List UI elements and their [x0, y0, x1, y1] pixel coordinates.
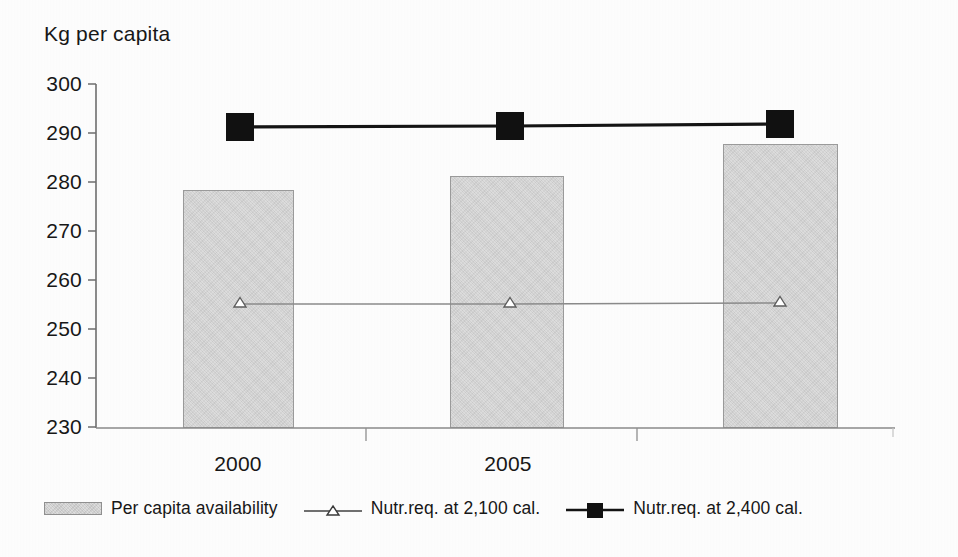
line-square-filled-icon — [566, 502, 624, 516]
chart-legend: Per capita availability Nutr.req. at 2,1… — [44, 498, 829, 519]
legend-item-nutr-req-2100: Nutr.req. at 2,100 cal. — [304, 498, 567, 519]
line-triangle-open-icon — [304, 502, 362, 516]
bar-swatch-icon — [44, 502, 102, 515]
series-line-2100 — [234, 297, 786, 308]
legend-item-nutr-req-2400: Nutr.req. at 2,400 cal. — [566, 498, 829, 519]
x-axis-tick-label-2005: 2005 — [438, 452, 578, 476]
marker-triangle-open — [234, 298, 246, 308]
marker-triangle-open — [504, 298, 516, 308]
marker-square-filled — [496, 112, 524, 140]
legend-item-per-capita-availability: Per capita availability — [44, 498, 304, 519]
legend-label: Nutr.req. at 2,400 cal. — [633, 498, 803, 519]
marker-square-filled — [766, 110, 794, 138]
legend-label: Nutr.req. at 2,100 cal. — [371, 498, 541, 519]
chart-page: Kg per capita 300 290 280 270 260 250 24… — [0, 0, 958, 557]
series-line-2400 — [226, 110, 794, 141]
legend-label: Per capita availability — [111, 498, 278, 519]
marker-triangle-open — [774, 297, 786, 307]
x-axis-tick-label-2000: 2000 — [168, 452, 308, 476]
marker-square-filled — [226, 113, 254, 141]
